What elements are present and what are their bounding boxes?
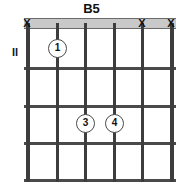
string-line-3 bbox=[84, 23, 87, 182]
string-line-5 bbox=[141, 23, 144, 182]
fret-line-2 bbox=[24, 105, 176, 108]
chord-diagram-widget: B5 II X X X 1 3 4 bbox=[0, 0, 183, 194]
muted-string-marker-6: X bbox=[165, 18, 177, 29]
muted-string-marker-5: X bbox=[136, 18, 148, 29]
string-line-4 bbox=[113, 23, 116, 182]
fret-line-1 bbox=[24, 67, 176, 70]
finger-dot-4: 4 bbox=[105, 114, 124, 133]
fret-position-label: II bbox=[6, 46, 24, 58]
fret-line-4 bbox=[24, 179, 176, 182]
chord-name-title: B5 bbox=[0, 1, 183, 16]
muted-string-marker-1: X bbox=[21, 18, 33, 29]
nut-bar bbox=[24, 18, 176, 29]
finger-dot-1: 1 bbox=[48, 39, 67, 58]
string-line-6 bbox=[170, 23, 174, 182]
fret-line-3 bbox=[24, 142, 176, 145]
string-line-1 bbox=[26, 23, 30, 182]
fretboard: X X X 1 3 4 bbox=[24, 18, 176, 184]
finger-dot-3: 3 bbox=[76, 114, 95, 133]
